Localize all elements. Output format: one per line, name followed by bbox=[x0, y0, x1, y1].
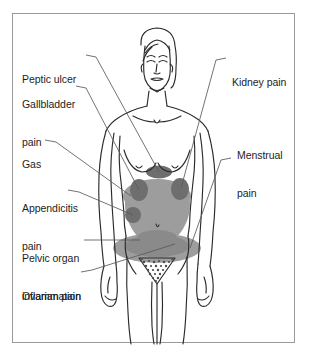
label-menstrual-pain: Menstrual pain bbox=[237, 124, 283, 224]
label-menstrual-pain-line-2: pain bbox=[237, 187, 283, 200]
label-kidney-pain-line-1: Kidney pain bbox=[232, 76, 286, 89]
pain-location-diagram: Peptic ulcer Gallbladder pain Gas Append… bbox=[0, 0, 309, 353]
label-pelvic-organ-inflammation-line-1: Pelvic organ bbox=[22, 252, 81, 265]
leader-peptic-ulcer bbox=[86, 55, 159, 172]
leader-kidney-pain bbox=[181, 58, 226, 188]
leader-ovarian-pain bbox=[81, 244, 175, 272]
leader-menstrual-pain bbox=[190, 158, 231, 248]
label-ovarian-pain-line-1: Ovarian pain bbox=[22, 290, 81, 303]
label-ovarian-pain: Ovarian pain bbox=[22, 265, 81, 328]
label-menstrual-pain-line-1: Menstrual bbox=[237, 149, 283, 162]
label-gallbladder-pain-line-1: Gallbladder bbox=[22, 98, 75, 111]
label-appendicitis-pain-line-1: Appendicitis bbox=[22, 202, 78, 215]
label-kidney-pain: Kidney pain bbox=[232, 51, 286, 114]
leader-gallbladder-pain bbox=[76, 86, 139, 190]
label-gas-line-1: Gas bbox=[22, 158, 41, 171]
